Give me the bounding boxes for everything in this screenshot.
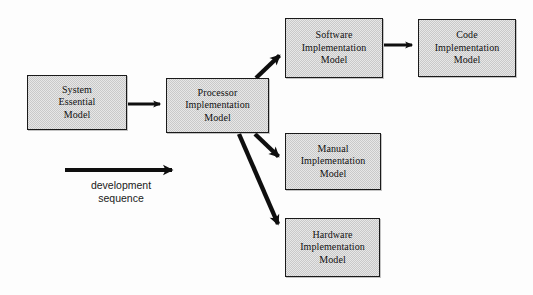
node-label-manual-implementation-model: Manual Implementation Model <box>299 143 368 180</box>
node-manual-implementation-model[interactable]: Manual Implementation Model <box>285 133 381 190</box>
node-software-implementation-model[interactable]: Software Implementation Model <box>285 18 383 78</box>
node-label-code-implementation-model: Code Implementation Model <box>433 29 502 66</box>
node-label-software-implementation-model: Software Implementation Model <box>300 29 369 66</box>
node-system-essential-model[interactable]: System Essential Model <box>27 75 127 130</box>
diagram-canvas: System Essential Model Processor Impleme… <box>0 0 533 295</box>
edge-processor-to-software <box>256 56 280 79</box>
development-sequence-label: development sequence <box>66 179 176 204</box>
node-label-hardware-implementation-model: Hardware Implementation Model <box>298 229 367 266</box>
edge-processor-to-hardware <box>239 134 278 224</box>
edge-processor-to-manual <box>255 134 279 157</box>
node-processor-implementation-model[interactable]: Processor Implementation Model <box>166 78 269 133</box>
node-label-system-essential-model: System Essential Model <box>56 84 97 121</box>
node-code-implementation-model[interactable]: Code Implementation Model <box>418 19 516 77</box>
node-hardware-implementation-model[interactable]: Hardware Implementation Model <box>285 218 380 277</box>
node-label-processor-implementation-model: Processor Implementation Model <box>183 87 252 124</box>
